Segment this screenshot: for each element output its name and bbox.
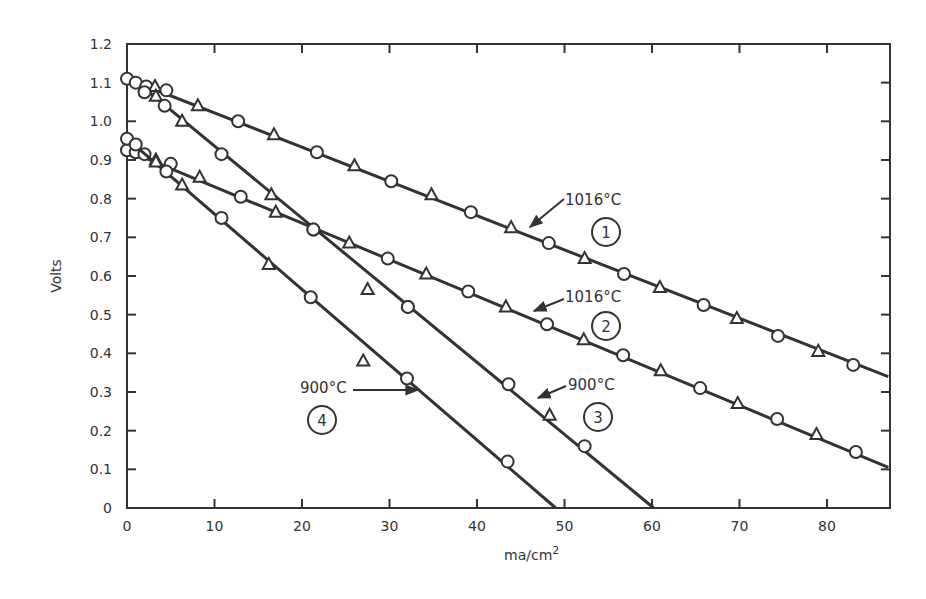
circle-marker-icon <box>465 206 477 218</box>
annotation-4: 900°C4 <box>300 379 418 434</box>
circle-marker-icon <box>311 146 323 158</box>
circle-marker-icon <box>502 456 514 468</box>
y-tick-label: 1.1 <box>90 75 112 91</box>
series-1 <box>121 73 888 377</box>
x-tick-label: 10 <box>206 518 224 534</box>
circle-marker-icon <box>618 268 630 280</box>
annotation-2: 1016°C2 <box>534 288 621 340</box>
chart: 00.10.20.30.40.50.60.70.80.91.01.11.2 01… <box>0 0 926 599</box>
series-line <box>127 139 556 508</box>
circle-marker-icon <box>216 212 228 224</box>
triangle-marker-icon <box>362 283 374 294</box>
circle-marker-icon <box>159 100 171 112</box>
y-tick-label: 0.4 <box>90 345 112 361</box>
circle-marker-icon <box>235 191 247 203</box>
y-axis: 00.10.20.30.40.50.60.70.80.91.01.11.2 <box>90 36 890 516</box>
temperature-label: 1016°C <box>565 191 621 209</box>
curve-number: 3 <box>593 409 603 427</box>
circle-marker-icon <box>543 237 555 249</box>
y-tick-label: 0.6 <box>90 268 112 284</box>
annotations: 1016°C11016°C2900°C3900°C4 <box>300 191 621 434</box>
y-tick-label: 0.9 <box>90 152 112 168</box>
y-tick-label: 0.3 <box>90 384 112 400</box>
curve-number: 2 <box>601 318 611 336</box>
circle-marker-icon <box>772 330 784 342</box>
arrow-icon <box>538 386 566 398</box>
curve-number: 4 <box>317 412 327 430</box>
plot-border <box>127 44 890 508</box>
circle-marker-icon <box>850 446 862 458</box>
circle-marker-icon <box>307 224 319 236</box>
y-tick-label: 0.7 <box>90 229 112 245</box>
annotation-1: 1016°C1 <box>530 191 621 246</box>
circle-marker-icon <box>305 291 317 303</box>
triangle-marker-icon <box>426 188 438 199</box>
circle-marker-icon <box>130 139 142 151</box>
circle-marker-icon <box>160 84 172 96</box>
triangle-marker-icon <box>357 355 369 366</box>
y-tick-label: 0.5 <box>90 307 112 323</box>
y-tick-label: 1.2 <box>90 36 112 52</box>
circle-marker-icon <box>698 299 710 311</box>
triangle-marker-icon <box>194 171 206 182</box>
series-4 <box>121 133 556 508</box>
circle-marker-icon <box>160 166 172 178</box>
y-tick-label: 0.8 <box>90 191 112 207</box>
x-tick-label: 0 <box>123 518 132 534</box>
x-axis-title-main: ma/cm <box>504 547 552 563</box>
circle-marker-icon <box>579 440 591 452</box>
y-tick-label: 0.2 <box>90 423 112 439</box>
circle-marker-icon <box>139 86 151 98</box>
circle-marker-icon <box>232 115 244 127</box>
x-tick-label: 70 <box>731 518 749 534</box>
y-tick-label: 0.1 <box>90 461 112 477</box>
temperature-label: 900°C <box>568 376 615 394</box>
y-axis-title: Volts <box>48 259 64 293</box>
arrow-icon <box>530 199 564 227</box>
x-tick-label: 40 <box>468 518 486 534</box>
circle-marker-icon <box>771 413 783 425</box>
x-tick-label: 80 <box>818 518 836 534</box>
circle-marker-icon <box>385 175 397 187</box>
circle-marker-icon <box>694 382 706 394</box>
circle-marker-icon <box>847 359 859 371</box>
arrow-icon <box>534 299 564 311</box>
circle-marker-icon <box>503 378 515 390</box>
triangle-marker-icon <box>811 428 823 439</box>
series-2 <box>121 144 888 467</box>
x-axis-title: ma/cm2 <box>504 544 559 563</box>
circle-marker-icon <box>402 301 414 313</box>
y-tick-label: 1.0 <box>90 113 112 129</box>
x-tick-label: 30 <box>381 518 399 534</box>
circle-marker-icon <box>382 253 394 265</box>
circle-marker-icon <box>401 372 413 384</box>
plot-frame <box>127 44 890 508</box>
x-tick-label: 60 <box>643 518 661 534</box>
curve-number: 1 <box>601 224 611 242</box>
circle-marker-icon <box>617 349 629 361</box>
x-axis-title-superscript: 2 <box>552 544 559 557</box>
triangle-marker-icon <box>544 409 556 420</box>
circle-marker-icon <box>462 285 474 297</box>
temperature-label: 1016°C <box>565 288 621 306</box>
circle-marker-icon <box>541 318 553 330</box>
temperature-label: 900°C <box>300 379 347 397</box>
y-tick-label: 0 <box>103 500 112 516</box>
data-series <box>121 73 888 508</box>
circle-marker-icon <box>216 148 228 160</box>
x-tick-label: 50 <box>556 518 574 534</box>
x-tick-label: 20 <box>293 518 311 534</box>
